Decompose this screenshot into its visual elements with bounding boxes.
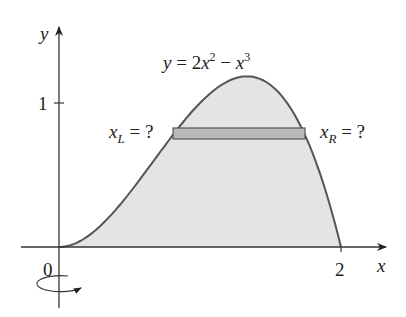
origin-label: 0 xyxy=(43,259,53,280)
x-tick-label: 2 xyxy=(335,259,345,280)
diagram-canvas: y x 1 0 2 y = 2x2 − x3 xL = ? xR = ? xyxy=(0,0,406,317)
x-right-label: xR = ? xyxy=(319,121,365,146)
equation-label: y = 2x2 − x3 xyxy=(161,50,250,73)
y-tick-label: 1 xyxy=(38,93,48,114)
y-axis-label: y xyxy=(38,23,49,44)
horizontal-strip xyxy=(173,128,305,139)
x-left-label: xL = ? xyxy=(108,121,153,146)
x-axis-label: x xyxy=(376,255,386,276)
